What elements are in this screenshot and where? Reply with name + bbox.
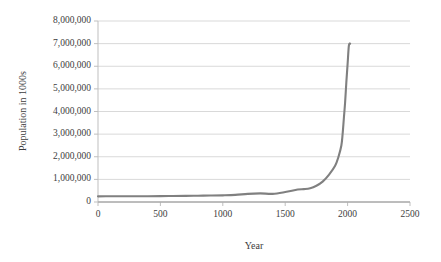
y-axis-tick-label: 0 bbox=[0, 197, 91, 207]
y-axis-tick-label: 1,000,000 bbox=[0, 175, 91, 185]
x-axis-tick-label: 2500 bbox=[401, 210, 420, 220]
y-axis-tick-label: 6,000,000 bbox=[0, 62, 91, 72]
x-axis-tick-label: 1000 bbox=[213, 210, 232, 220]
y-axis-tick-label: 8,000,000 bbox=[0, 16, 91, 26]
y-axis-tick-label: 2,000,000 bbox=[0, 152, 91, 162]
x-axis-tick-label: 500 bbox=[153, 210, 167, 220]
x-axis-tick-label: 0 bbox=[96, 210, 101, 220]
y-axis-tick-marks bbox=[94, 21, 98, 202]
x-axis-tick-label: 2000 bbox=[338, 210, 357, 220]
x-axis-tick-label: 1500 bbox=[276, 210, 295, 220]
y-axis-tick-label: 3,000,000 bbox=[0, 129, 91, 139]
gridlines bbox=[98, 21, 410, 202]
x-axis-title: Year bbox=[245, 240, 263, 251]
x-axis-tick-marks bbox=[98, 202, 410, 206]
population-growth-chart: 01,000,0002,000,0003,000,0004,000,0005,0… bbox=[0, 0, 441, 262]
y-axis-tick-label: 4,000,000 bbox=[0, 107, 91, 117]
y-axis-tick-label: 7,000,000 bbox=[0, 39, 91, 49]
y-axis-title: Population in 1000s bbox=[17, 71, 28, 151]
y-axis-tick-label: 5,000,000 bbox=[0, 84, 91, 94]
